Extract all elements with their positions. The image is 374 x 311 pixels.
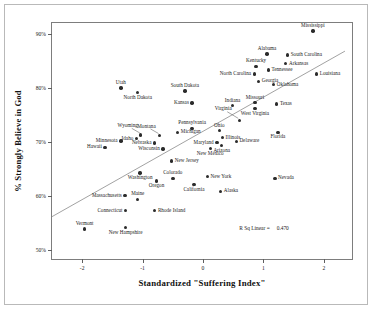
data-point-label: Arkansas: [289, 61, 308, 66]
data-point: [235, 140, 238, 143]
data-point-label: North Dakota: [124, 95, 152, 100]
y-tick-mark: [48, 196, 52, 197]
data-point: [103, 146, 106, 149]
data-point-label: Vermont: [76, 222, 94, 227]
r-squared-label: R Sq Linear =: [239, 225, 269, 231]
data-point-label: Pennsylvania: [178, 121, 206, 126]
data-point-label: Maryland: [194, 140, 214, 145]
data-point: [161, 147, 164, 150]
data-point-label: Tennessee: [271, 68, 292, 73]
data-point-label: Alaska: [224, 189, 238, 194]
data-point-label: Connecticut: [97, 208, 122, 213]
data-point-label: Louisiana: [320, 71, 340, 76]
x-tick-mark: [143, 259, 144, 263]
data-point: [190, 101, 193, 104]
data-point-label: New Jersey: [175, 158, 199, 163]
data-point-label: Washington: [128, 175, 153, 180]
data-point: [253, 72, 256, 75]
data-point-label: South Carolina: [291, 52, 322, 57]
data-point-label: California: [183, 187, 204, 192]
data-point-label: Mississippi: [301, 24, 325, 29]
data-point-label: Illinois: [226, 135, 241, 140]
data-point-label: Oregon: [149, 184, 165, 189]
data-point-label: Hawaii: [87, 145, 102, 150]
data-point: [254, 65, 257, 68]
y-tick-mark: [48, 34, 52, 35]
y-tick-mark: [48, 250, 52, 251]
x-tick-label: 1: [262, 265, 265, 271]
data-point-label: New Mexico: [197, 151, 224, 156]
data-point: [123, 194, 126, 197]
y-tick-label: 80%: [36, 85, 46, 91]
data-point: [238, 119, 241, 122]
x-tick-mark: [263, 259, 264, 263]
data-point-label: New York: [210, 174, 231, 179]
data-point: [267, 68, 270, 71]
data-point-label: Texas: [280, 102, 292, 107]
data-point-label: Kansas: [174, 101, 189, 106]
plot-inner: MississippiAlabamaSouth CarolinaArkansas…: [52, 23, 352, 259]
x-tick-label: 2: [322, 265, 325, 271]
x-tick-label: -2: [80, 265, 85, 271]
data-point: [119, 86, 122, 89]
data-point-label: Rhode Island: [158, 208, 186, 213]
data-point-label: Colorado: [163, 171, 182, 176]
y-tick-label: 90%: [36, 31, 46, 37]
data-point: [315, 72, 318, 75]
data-point-label: Oklahoma: [277, 82, 299, 87]
data-point-label: Wyoming: [118, 123, 138, 128]
data-point: [265, 52, 268, 55]
data-point-label: Kentucky: [246, 59, 266, 64]
data-point-label: Delaware: [239, 139, 259, 144]
data-point-label: Maine: [131, 192, 144, 197]
data-point: [273, 177, 276, 180]
data-point-label: Georgia: [262, 79, 279, 84]
data-point: [171, 177, 174, 180]
chart-screenshot: % Strongly Believe in God MississippiAla…: [0, 0, 374, 311]
data-point-label: West Virginia: [241, 111, 269, 116]
x-axis-title: Standardized "Suffering Index": [51, 278, 353, 288]
data-point: [311, 29, 314, 32]
data-point-label: Ohio: [214, 123, 224, 128]
x-tick-mark: [82, 259, 83, 263]
x-tick-label: -1: [140, 265, 145, 271]
data-point: [286, 53, 289, 56]
y-axis-title: % Strongly Believe in God: [11, 22, 25, 260]
y-tick-mark: [48, 142, 52, 143]
data-point-label: New Hampshire: [109, 230, 143, 235]
data-point-label: Nevada: [278, 176, 294, 181]
data-point-label: Utah: [116, 80, 126, 85]
data-point: [183, 89, 186, 92]
y-axis-title-text: % Strongly Believe in God: [13, 90, 23, 191]
data-point-label: Wisconsin: [138, 146, 160, 151]
data-point: [215, 141, 218, 144]
data-point: [253, 101, 256, 104]
data-point-label: Minnesota: [96, 138, 118, 143]
r-squared-annotation: R Sq Linear =0.470: [239, 225, 289, 231]
data-point-label: Alabama: [258, 46, 277, 51]
plot-area: MississippiAlabamaSouth CarolinaArkansas…: [51, 22, 353, 260]
data-point-label: South Dakota: [171, 84, 199, 89]
data-point-label: Missouri: [246, 95, 264, 100]
x-tick-mark: [324, 259, 325, 263]
x-tick-label: 0: [202, 265, 205, 271]
data-point-label: Massachusetts: [92, 193, 122, 198]
data-point-label: Montana: [137, 124, 155, 129]
y-tick-label: 70%: [36, 139, 46, 145]
data-point-label: Virginia: [215, 107, 232, 112]
y-tick-label: 60%: [36, 193, 46, 199]
data-point-label: Indiana: [225, 98, 241, 103]
data-point-label: North Carolina: [220, 71, 251, 76]
y-tick-mark: [48, 88, 52, 89]
data-point-label: Michigan: [181, 130, 201, 135]
data-point: [170, 159, 173, 162]
r-squared-value: 0.470: [277, 225, 289, 231]
x-tick-mark: [203, 259, 204, 263]
y-tick-label: 50%: [36, 247, 46, 253]
data-point-label: Florida: [270, 135, 285, 140]
